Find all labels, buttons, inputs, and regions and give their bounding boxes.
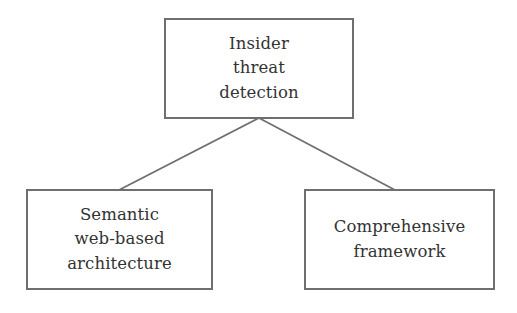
node-comprehensive-framework: Comprehensive framework <box>304 189 495 290</box>
connector-root-to-right <box>259 118 395 190</box>
node-semantic-web-based-architecture: Semantic web-based architecture <box>26 189 213 290</box>
node-label-left: Semantic web-based architecture <box>67 203 172 277</box>
diagram-canvas: Insider threat detection Semantic web-ba… <box>0 0 517 313</box>
connector-root-to-left <box>119 118 259 190</box>
node-insider-threat-detection: Insider threat detection <box>164 18 354 119</box>
node-label-root: Insider threat detection <box>219 32 298 106</box>
node-label-right: Comprehensive framework <box>334 215 466 264</box>
